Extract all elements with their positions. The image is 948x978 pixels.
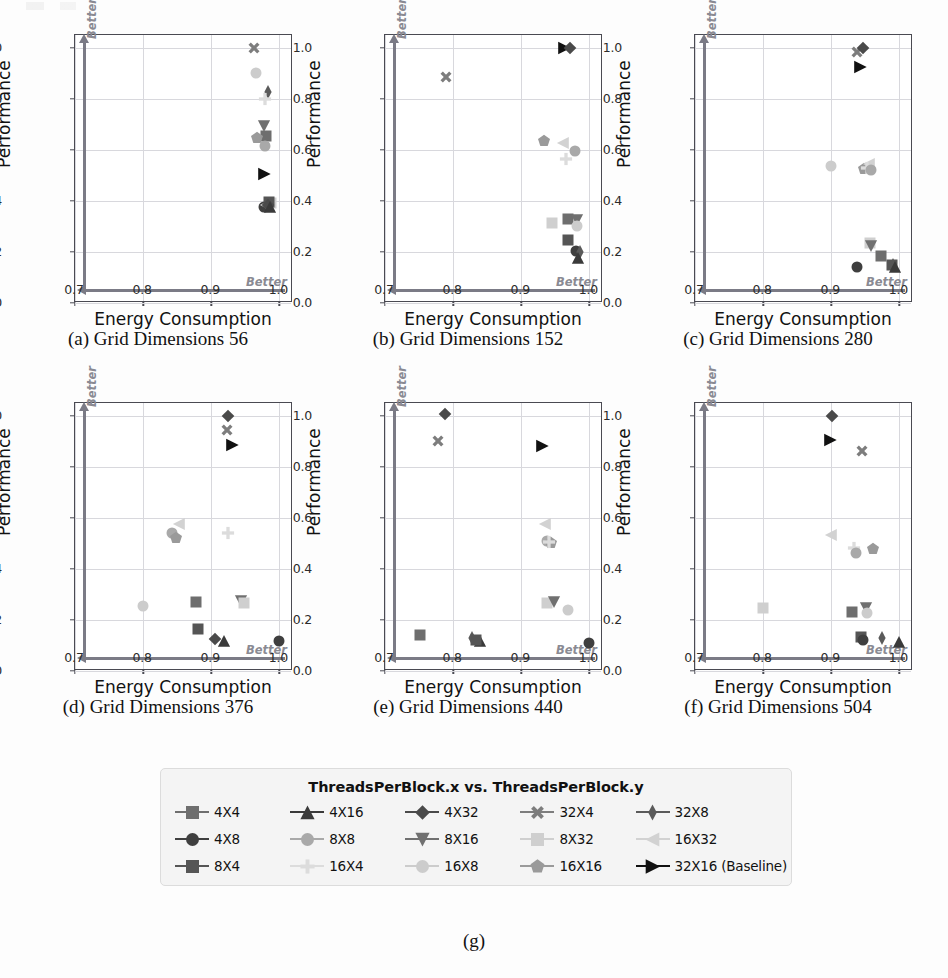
legend-marker-triangle-up-icon [290,803,324,821]
gridline-vertical [75,403,76,669]
legend-label: 16X16 [559,858,602,874]
legend-item-8x8[interactable]: 8X8 [280,830,395,848]
gridline-horizontal [385,416,601,417]
gridline-horizontal [695,467,911,468]
y-tick-mark [690,200,695,201]
better-arrow-horizontal [395,657,595,660]
data-point-32x16-baseline [257,167,272,182]
data-point-32x16-baseline [822,433,837,448]
data-point-16x16 [536,133,551,148]
data-point-32x16-baseline [534,439,549,454]
data-point-4x4 [258,128,273,143]
better-label-vertical: Better [705,366,719,407]
y-tick-label: 0.2 [0,611,2,626]
data-point-4x4 [412,628,427,643]
better-label-vertical: Better [395,0,409,39]
legend-item-8x32[interactable]: 8X32 [510,830,625,848]
y-tick-mark [380,98,385,99]
x-tick-label: 0.9 [511,282,530,297]
legend-item-16x4[interactable]: 16X4 [280,857,395,875]
y-tick-mark [690,98,695,99]
legend-item-4x32[interactable]: 4X32 [395,803,510,821]
legend-marker-circle-icon [290,830,324,848]
data-point-8x8 [258,139,273,154]
legend-label: 16X4 [329,858,363,874]
y-tick-mark [690,670,695,671]
y-tick-mark [690,619,695,620]
x-tick-label: 0.8 [132,282,151,297]
subplot-caption: (c) Grid Dimensions 280 [620,328,936,350]
plot-area: BetterBetter [694,34,912,302]
gridline-horizontal [75,303,291,304]
gridline-horizontal [695,518,911,519]
y-tick-label: 0.4 [293,560,312,575]
plot-area: BetterBetter [384,402,602,670]
y-tick-label: 1.0 [0,407,2,422]
subplot-d: PerformanceEnergy ConsumptionBetterBette… [0,378,316,728]
better-arrow-vertical [393,41,396,293]
y-tick-mark [380,149,385,150]
gridline-horizontal [385,303,601,304]
legend-item-16x32[interactable]: 16X32 [626,830,787,848]
y-tick-label: 0.4 [603,192,622,207]
legend-item-32x8[interactable]: 32X8 [626,803,787,821]
x-tick-label: 0.8 [752,650,771,665]
legend-item-16x16[interactable]: 16X16 [510,857,625,875]
x-tick-label: 0.8 [752,282,771,297]
subplot-row-2: PerformanceEnergy ConsumptionBetterBette… [0,378,948,728]
y-tick-mark [380,200,385,201]
y-tick-label: 0.0 [293,295,312,310]
x-tick-label: 0.8 [442,650,461,665]
gridline-vertical [211,403,212,669]
gridline-vertical [763,403,764,669]
x-axis-label: Energy Consumption [694,677,912,697]
gridline-horizontal [75,467,291,468]
x-tick-label: 0.7 [64,650,83,665]
data-point-8x16 [864,238,879,253]
gridline-horizontal [75,569,291,570]
legend-item-4x8[interactable]: 4X8 [165,830,280,848]
legend-label: 4X4 [214,804,240,820]
legend-item-16x8[interactable]: 16X8 [395,857,510,875]
y-tick-label: 0.2 [293,243,312,258]
legend-label: 4X16 [329,804,363,820]
gridline-horizontal [75,48,291,49]
legend-item-8x16[interactable]: 8X16 [395,830,510,848]
y-tick-label: 1.0 [293,39,312,54]
data-point-4x8 [850,260,865,275]
y-tick-mark [690,251,695,252]
legend-item-8x4[interactable]: 8X4 [165,857,280,875]
gridline-horizontal [695,671,911,672]
gridline-horizontal [695,150,911,151]
gridline-horizontal [75,518,291,519]
legend-item-4x16[interactable]: 4X16 [280,803,395,821]
data-point-16x16 [865,541,880,556]
subplot-caption: (b) Grid Dimensions 152 [310,328,626,350]
subplot-f: PerformanceEnergy ConsumptionBetterBette… [620,378,936,728]
data-point-4x4 [561,211,576,226]
better-arrow-horizontal [85,657,285,660]
y-tick-label: 0.4 [0,192,2,207]
legend-item-32x16-baseline[interactable]: 32X16 (Baseline) [626,857,787,875]
gridline-vertical [763,35,764,301]
data-point-4x16 [216,633,231,648]
legend-marker-triangle-down-icon [405,830,439,848]
gridline-vertical [899,403,900,669]
y-tick-label: 1.0 [293,407,312,422]
y-tick-label: 0.0 [603,663,622,678]
gridline-vertical [695,403,696,669]
y-tick-mark [70,200,75,201]
subplot-c: PerformanceEnergy ConsumptionBetterBette… [620,10,936,360]
x-tick-label: 0.7 [64,282,83,297]
x-tick-label: 0.7 [684,650,703,665]
y-tick-label: 0.0 [0,295,2,310]
legend-item-32x4[interactable]: 32X4 [510,803,625,821]
data-point-32x4 [854,443,869,458]
subplot-caption: (a) Grid Dimensions 56 [0,328,316,350]
gridline-horizontal [695,48,911,49]
legend-item-4x4[interactable]: 4X4 [165,803,280,821]
data-point-16x16 [249,131,264,146]
y-tick-mark [690,47,695,48]
data-point-16x16 [168,531,183,546]
data-point-8x4 [190,621,205,636]
